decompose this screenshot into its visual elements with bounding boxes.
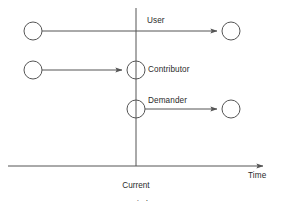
user-end-node <box>222 22 240 40</box>
actor-label-demander: Demander <box>148 96 187 105</box>
current-period-label-line1: Current <box>122 181 149 191</box>
user-start-node <box>24 22 42 40</box>
diagram-canvas: User Contributor Demander Current Period… <box>0 0 285 201</box>
actor-row-contributor <box>24 61 145 79</box>
contributor-start-node <box>24 61 42 79</box>
actor-row-user <box>24 22 240 40</box>
actor-label-contributor: Contributor <box>148 65 190 74</box>
actor-label-user: User <box>147 16 165 25</box>
current-period-axis-label: Current Period <box>122 171 149 201</box>
time-axis-label: Time <box>248 171 266 180</box>
demander-end-node <box>222 100 240 118</box>
current-period-label-line2: Period <box>122 200 149 202</box>
